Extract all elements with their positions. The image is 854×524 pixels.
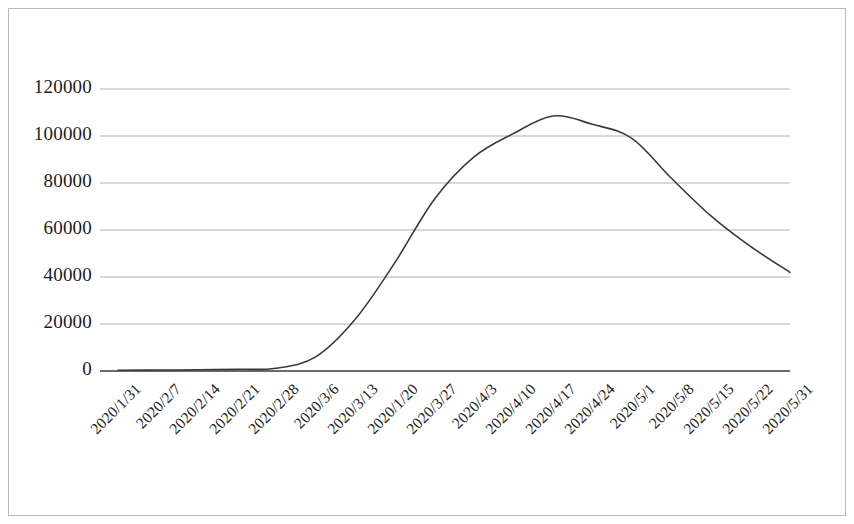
y-axis-tick-label: 60000: [44, 217, 93, 239]
y-axis-tick-label: 100000: [34, 123, 92, 145]
gridlines-group: [100, 89, 790, 324]
y-axis-tick-label: 80000: [44, 170, 93, 192]
y-axis-tick-label: 20000: [44, 311, 93, 333]
y-axis-tick-label: 120000: [34, 76, 92, 98]
series-line-covid: [118, 116, 790, 371]
y-axis-tick-label: 40000: [44, 264, 93, 286]
y-axis-tick-label: 0: [82, 358, 92, 380]
chart-figure: 020000400006000080000100000120000 2020/1…: [0, 0, 854, 524]
